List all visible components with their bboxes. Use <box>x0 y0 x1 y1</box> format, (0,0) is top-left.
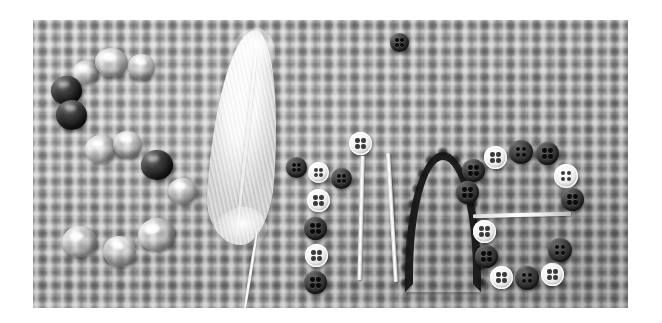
button-holes <box>481 251 491 261</box>
sewing-button <box>554 164 578 188</box>
button-holes <box>462 187 472 197</box>
sewing-button <box>304 217 327 240</box>
button-holes <box>567 194 577 204</box>
photo-caption: The word Spring spelled out with craft m… <box>0 0 1 1</box>
button-holes <box>310 277 320 287</box>
sewing-button <box>308 162 329 183</box>
button-holes <box>542 148 552 158</box>
photo-canvas: The word Spring spelled out with craft m… <box>0 0 662 323</box>
sewing-button <box>304 271 327 294</box>
sewing-button <box>490 266 513 289</box>
button-holes <box>355 138 365 148</box>
button-holes <box>547 269 557 279</box>
button-holes <box>555 245 566 256</box>
sewing-button <box>331 168 352 189</box>
button-holes <box>490 152 500 162</box>
letter-p-feather <box>205 30 287 280</box>
sewing-button <box>473 220 496 243</box>
sewing-button <box>548 238 572 262</box>
sewing-button <box>561 188 584 211</box>
button-holes <box>311 250 321 260</box>
sewing-button <box>307 189 330 212</box>
button-holes <box>496 272 506 282</box>
button-holes <box>516 147 527 158</box>
button-holes <box>522 273 533 284</box>
button-holes <box>313 195 323 205</box>
button-holes <box>314 168 323 177</box>
sewing-button <box>484 146 507 169</box>
sewing-button-i-dot <box>390 33 409 52</box>
button-holes <box>468 165 478 175</box>
sewing-button <box>541 263 564 286</box>
sewing-button <box>305 244 328 267</box>
button-holes <box>337 174 346 183</box>
sewing-button <box>515 266 539 290</box>
sewing-button <box>456 181 479 204</box>
button-holes <box>310 223 320 233</box>
sewing-button <box>475 245 498 268</box>
button-holes <box>561 171 572 182</box>
button-holes <box>292 163 301 172</box>
button-holes <box>395 38 403 46</box>
sewing-button-i-top <box>349 132 372 155</box>
sewing-button <box>536 142 559 165</box>
sewing-button <box>509 140 533 164</box>
craft-photograph <box>33 20 628 308</box>
sewing-button <box>462 159 485 182</box>
button-holes <box>479 226 489 236</box>
sewing-button <box>286 157 307 178</box>
